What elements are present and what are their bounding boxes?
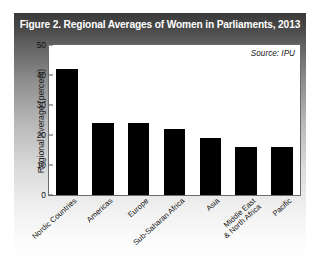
y-tick-mark bbox=[49, 75, 53, 76]
y-tick-label: 50 bbox=[37, 40, 46, 50]
y-tick-label: 30 bbox=[37, 100, 46, 110]
bar bbox=[200, 138, 222, 195]
y-tick-mark bbox=[49, 165, 53, 166]
bar bbox=[235, 147, 257, 195]
bar bbox=[56, 69, 78, 195]
bar bbox=[92, 123, 114, 195]
plot-area: Source: IPU 01020304050 Nordic Countries… bbox=[48, 44, 301, 196]
y-tick-mark bbox=[49, 105, 53, 106]
bar bbox=[271, 147, 293, 195]
y-tick-mark bbox=[49, 195, 53, 196]
source-annotation: Source: IPU bbox=[251, 49, 295, 58]
y-tick-label: 20 bbox=[37, 130, 46, 140]
y-tick-mark bbox=[49, 45, 53, 46]
bar bbox=[128, 123, 150, 195]
x-tick-label: Americas bbox=[85, 197, 114, 224]
x-tick-label: Nordic Countries bbox=[31, 197, 79, 241]
x-tick-label: Pacific bbox=[271, 197, 293, 218]
y-tick-mark bbox=[49, 135, 53, 136]
bar bbox=[164, 129, 186, 195]
x-tick-label: Asia bbox=[205, 197, 222, 213]
y-tick-label: 40 bbox=[37, 70, 46, 80]
x-tick-label: Europe bbox=[126, 197, 150, 220]
figure-panel: Figure 2. Regional Averages of Women in … bbox=[14, 13, 306, 259]
x-tick-label: Middle East & North Africa bbox=[217, 197, 263, 241]
y-tick-label: 10 bbox=[37, 160, 46, 170]
figure-title: Figure 2. Regional Averages of Women in … bbox=[14, 18, 306, 31]
y-tick-label: 0 bbox=[41, 190, 46, 200]
